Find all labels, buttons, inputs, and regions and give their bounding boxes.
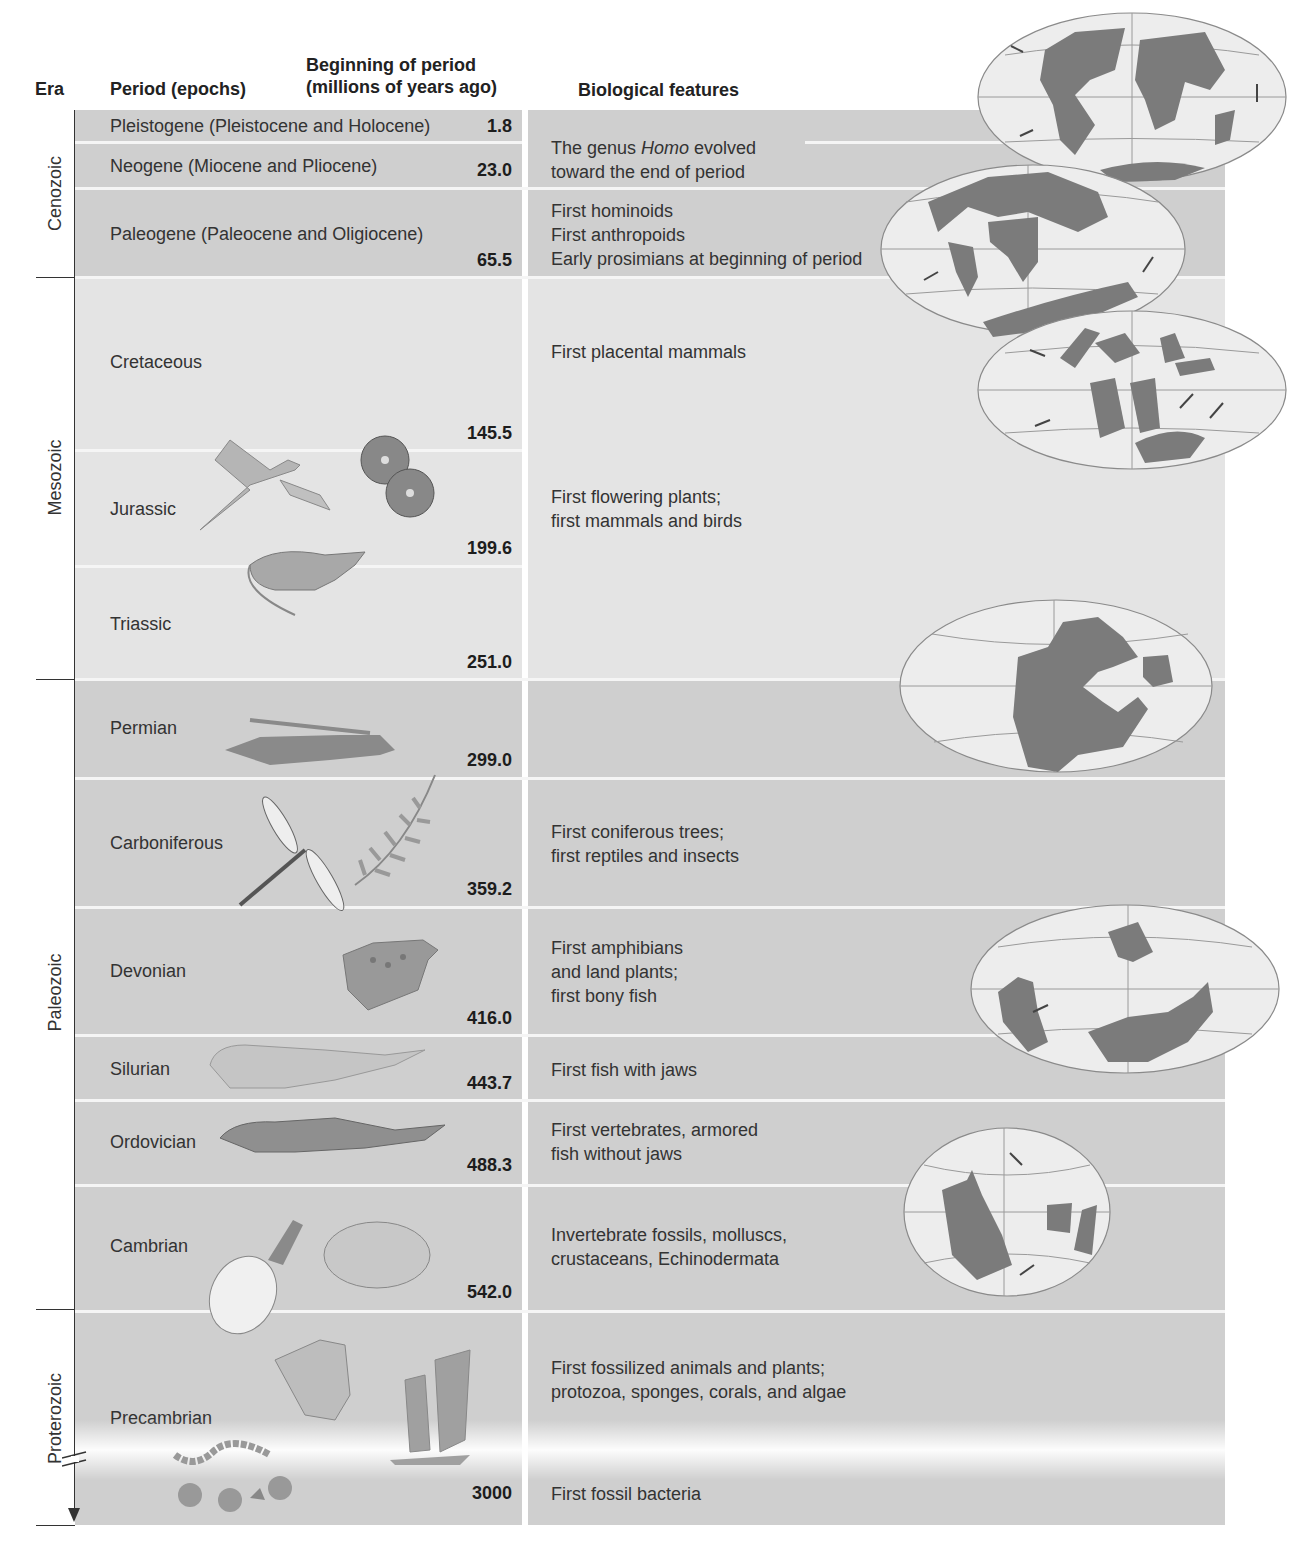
bio-homo: The genus Homo evolved toward the end of… <box>551 136 756 184</box>
algae-illustration <box>265 1335 355 1425</box>
period-mya: 1.8 <box>487 116 512 137</box>
period-mya: 299.0 <box>467 750 512 771</box>
period-name: Cretaceous <box>110 352 202 373</box>
period-mya: 199.6 <box>467 538 512 559</box>
bio-line: First flowering plants; <box>551 485 742 509</box>
bio-precambrian-lower: First fossil bacteria <box>551 1482 701 1506</box>
bio-cretaceous: First placental mammals <box>551 340 746 364</box>
bio-text: evolved <box>689 138 756 158</box>
period-name: Jurassic <box>110 499 176 520</box>
era-label-mesozoic: Mesozoic <box>45 378 66 578</box>
cambrian-continents-map <box>902 1125 1112 1300</box>
period-name: Devonian <box>110 961 186 982</box>
period-mya: 65.5 <box>477 250 512 271</box>
cretaceous-continents-map <box>975 308 1290 473</box>
period-name: Pleistogene (Pleistocene and Holocene) <box>110 116 430 137</box>
jawed-fish-illustration <box>205 1040 435 1095</box>
bio-cell: First fossilized animals and plants; pro… <box>528 1311 1225 1525</box>
fern-illustration <box>345 770 445 895</box>
period-mya: 542.0 <box>467 1282 512 1303</box>
mollusc-illustration <box>198 1215 313 1335</box>
axis-arrow-icon <box>68 1508 82 1526</box>
bio-cell: First vertebrates, armored fish without … <box>528 1100 1225 1185</box>
bio-line: first mammals and birds <box>551 509 742 533</box>
period-name: Cambrian <box>110 1236 188 1257</box>
row-separator <box>75 141 522 144</box>
devonian-continents-map <box>968 902 1283 1077</box>
flowering-plant-illustration <box>345 425 445 525</box>
period-name: Silurian <box>110 1059 170 1080</box>
bio-cambrian: Invertebrate fossils, molluscs, crustace… <box>551 1223 787 1271</box>
bio-line: First coniferous trees; <box>551 820 739 844</box>
pangaea-map <box>898 597 1216 775</box>
period-name: Permian <box>110 718 177 739</box>
bio-carboniferous: First coniferous trees; first reptiles a… <box>551 820 739 868</box>
header-period: Period (epochs) <box>110 78 246 100</box>
axis-break-icon <box>62 1448 88 1472</box>
bio-line: protozoa, sponges, corals, and algae <box>551 1380 846 1404</box>
bio-line: and land plants; <box>551 960 683 984</box>
bio-jurassic: First flowering plants; first mammals an… <box>551 485 742 533</box>
bio-line: First vertebrates, armored <box>551 1118 758 1142</box>
period-mya: 145.5 <box>467 423 512 444</box>
dragonfly-illustration <box>230 795 350 915</box>
era-divider-tick <box>36 1309 75 1310</box>
header-beginning-line1: Beginning of period <box>306 54 476 76</box>
bio-line: crustaceans, Echinodermata <box>551 1247 787 1271</box>
trilobite-illustration <box>320 1218 435 1293</box>
bio-line: First hominoids <box>551 199 862 223</box>
present-day-continents-map <box>975 10 1290 185</box>
bacteria-illustration <box>165 1430 365 1520</box>
bio-italic-genus: Homo <box>641 138 689 158</box>
amphibian-illustration <box>333 935 443 1015</box>
bio-line: first bony fish <box>551 984 683 1008</box>
bio-ordovician: First vertebrates, armored fish without … <box>551 1118 758 1166</box>
header-beginning-line2: (millions of years ago) <box>306 76 497 98</box>
bio-line: First fossilized animals and plants; <box>551 1356 846 1380</box>
jawless-fish-illustration <box>215 1110 460 1165</box>
bio-silurian: First fish with jaws <box>551 1058 697 1082</box>
period-mya: 443.7 <box>467 1073 512 1094</box>
row-separator <box>75 1099 1225 1102</box>
period-mya: 3000 <box>472 1483 512 1504</box>
bio-devonian: First amphibians and land plants; first … <box>551 936 683 1008</box>
bio-line: fish without jaws <box>551 1142 758 1166</box>
period-mya: 251.0 <box>467 652 512 673</box>
period-cell: Devonian 416.0 <box>75 907 522 1035</box>
bio-paleogene: First hominoids First anthropoids Early … <box>551 199 862 271</box>
bio-line: Invertebrate fossils, molluscs, <box>551 1223 787 1247</box>
archaeopteryx-illustration <box>190 430 340 540</box>
period-cell: Pleistogene (Pleistocene and Holocene) 1… <box>75 110 522 142</box>
period-name: Paleogene (Paleocene and Oligiocene) <box>110 224 423 245</box>
era-label-proterozoic: Proterozoic <box>45 1319 66 1519</box>
bio-text: The genus <box>551 138 641 158</box>
bio-line: first reptiles and insects <box>551 844 739 868</box>
bio-precambrian-upper: First fossilized animals and plants; pro… <box>551 1356 846 1404</box>
period-mya: 488.3 <box>467 1155 512 1176</box>
early-mammal-illustration <box>235 540 385 620</box>
sponge-illustration <box>385 1340 480 1470</box>
period-cell: Cretaceous 145.5 <box>75 277 522 450</box>
period-name: Triassic <box>110 614 171 635</box>
header-biological: Biological features <box>578 79 739 101</box>
period-name: Carboniferous <box>110 833 223 854</box>
bio-line: Early prosimians at beginning of period <box>551 247 862 271</box>
period-cell: Neogene (Miocene and Pliocene) 23.0 <box>75 142 522 188</box>
period-cell: Paleogene (Paleocene and Oligiocene) 65.… <box>75 188 522 277</box>
bio-line: toward the end of period <box>551 160 756 184</box>
period-name: Neogene (Miocene and Pliocene) <box>110 156 377 177</box>
bio-line: The genus Homo evolved <box>551 136 756 160</box>
period-mya: 23.0 <box>477 160 512 181</box>
bio-line: First anthropoids <box>551 223 862 247</box>
period-name: Ordovician <box>110 1132 196 1153</box>
bio-line: First amphibians <box>551 936 683 960</box>
period-mya: 359.2 <box>467 879 512 900</box>
bio-cell: First coniferous trees; first reptiles a… <box>528 778 1225 907</box>
era-divider-tick <box>36 679 75 680</box>
era-label-cenozoic: Cenozoic <box>45 94 66 294</box>
period-mya: 416.0 <box>467 1008 512 1029</box>
era-label-paleozoic: Paleozoic <box>45 893 66 1093</box>
bio-cell: Invertebrate fossils, molluscs, crustace… <box>528 1185 1225 1311</box>
